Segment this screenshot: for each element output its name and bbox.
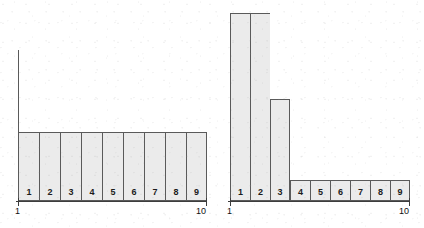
right-bar-label-2: 2 xyxy=(251,187,270,197)
left-bar-label-3: 3 xyxy=(61,187,81,197)
right-bar-7: 7 xyxy=(350,180,370,201)
right-histogram-plot-area: 1 2 3 4 5 6 7 8 9 1 10 xyxy=(212,0,424,228)
right-bar-label-8: 8 xyxy=(371,187,390,197)
left-bar-2: 2 xyxy=(39,132,60,201)
right-x-axis-label-start: 1 xyxy=(227,206,232,216)
left-bar-label-7: 7 xyxy=(145,187,165,197)
left-x-axis-label-end: 10 xyxy=(196,206,206,216)
left-bar-7: 7 xyxy=(144,132,165,201)
right-bar-3: 3 xyxy=(270,99,290,201)
left-histogram-plot-area: 1 2 3 4 5 6 7 8 9 1 10 xyxy=(0,0,212,228)
right-bar-label-5: 5 xyxy=(311,187,330,197)
left-bar-label-2: 2 xyxy=(40,187,60,197)
left-x-axis-line xyxy=(16,201,207,202)
left-bar-label-1: 1 xyxy=(19,187,39,197)
left-bar-label-8: 8 xyxy=(166,187,186,197)
right-x-axis-tick-end xyxy=(409,198,410,206)
right-bar-label-4: 4 xyxy=(291,187,310,197)
right-bar-label-3: 3 xyxy=(271,187,289,197)
right-bar-9: 9 xyxy=(390,180,410,201)
right-bar-4: 4 xyxy=(290,180,310,201)
left-bar-9: 9 xyxy=(186,132,207,201)
right-x-axis-label-end: 10 xyxy=(399,206,409,216)
left-x-axis-label-start: 1 xyxy=(15,206,20,216)
left-bar-5: 5 xyxy=(102,132,123,201)
right-x-axis-tick-start xyxy=(230,198,231,206)
right-bar-label-9: 9 xyxy=(391,187,409,197)
left-bar-3: 3 xyxy=(60,132,81,201)
left-bar-8: 8 xyxy=(165,132,186,201)
right-x-axis-line xyxy=(228,201,410,202)
left-bar-label-4: 4 xyxy=(82,187,102,197)
left-histogram-figure: 1 2 3 4 5 6 7 8 9 1 10 xyxy=(0,0,212,228)
left-bar-6: 6 xyxy=(123,132,144,201)
right-bar-label-7: 7 xyxy=(351,187,370,197)
right-histogram-figure: 1 2 3 4 5 6 7 8 9 1 10 xyxy=(212,0,424,228)
left-x-axis-tick-end xyxy=(206,198,207,206)
right-bar-5: 5 xyxy=(310,180,330,201)
right-bar-label-1: 1 xyxy=(231,187,250,197)
left-bar-4: 4 xyxy=(81,132,102,201)
right-bar-6: 6 xyxy=(330,180,350,201)
left-bar-label-9: 9 xyxy=(187,187,206,197)
right-bar-label-6: 6 xyxy=(331,187,350,197)
right-bar-8: 8 xyxy=(370,180,390,201)
right-bar-2: 2 xyxy=(250,13,270,201)
left-bar-label-6: 6 xyxy=(124,187,144,197)
left-bar-label-5: 5 xyxy=(103,187,123,197)
left-x-axis-tick-start xyxy=(18,198,19,206)
left-bar-1: 1 xyxy=(18,132,39,201)
right-bar-1: 1 xyxy=(230,13,250,201)
